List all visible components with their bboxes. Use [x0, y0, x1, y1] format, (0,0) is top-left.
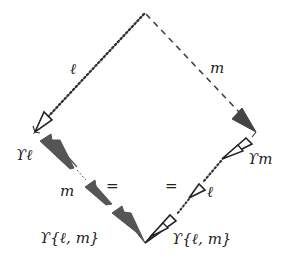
- filled-double-arrow-icon: [112, 206, 145, 243]
- label-left-end: ϒ{ℓ, m}: [40, 229, 99, 247]
- label-right-end: ϒ{ℓ, m}: [172, 230, 231, 248]
- edge-top-right: [146, 14, 256, 132]
- hollow-double-arrow-icon: [150, 223, 168, 237]
- filled-double-arrow-icon: [40, 134, 74, 169]
- edge-top-left: [33, 14, 144, 133]
- label-left-start: ϒℓ: [16, 146, 33, 164]
- label-right-middle: ℓ: [207, 183, 213, 201]
- hollow-arrowhead-icon: [189, 184, 205, 198]
- label-left-middle: m: [60, 182, 74, 200]
- filled-arrowhead-icon: [232, 108, 256, 132]
- label-top-left: ℓ: [70, 60, 76, 78]
- equals-right: =: [165, 177, 178, 195]
- hollow-double-arrow-icon: [222, 145, 243, 159]
- label-top-right: m: [210, 59, 224, 77]
- commutative-diagram: ℓ m ϒℓ m ϒ{ℓ, m} = ϒm ℓ ϒ{ℓ, m} =: [0, 0, 296, 267]
- label-right-start: ϒm: [248, 150, 273, 168]
- equals-left: =: [106, 177, 119, 195]
- edge-left-bottom: [40, 134, 145, 243]
- edge-right-bottom: [145, 132, 256, 243]
